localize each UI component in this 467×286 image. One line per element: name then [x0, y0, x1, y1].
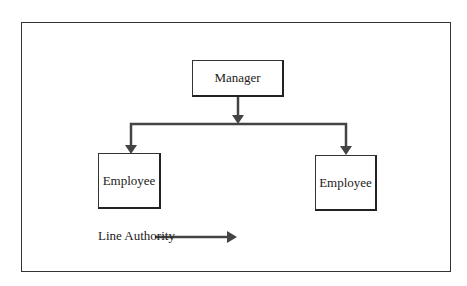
employee-box-left: Employee — [98, 153, 161, 209]
legend-line-authority: Line Authority — [98, 228, 175, 244]
employee-label: Employee — [103, 173, 156, 189]
manager-label: Manager — [214, 70, 260, 86]
connector-lines — [0, 0, 467, 286]
employee-box-right: Employee — [315, 155, 377, 211]
manager-box: Manager — [192, 60, 284, 97]
employee-label: Employee — [319, 175, 372, 191]
